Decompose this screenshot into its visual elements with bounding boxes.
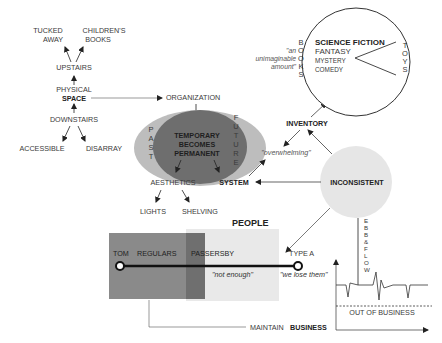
svg-text:F: F [234, 113, 239, 122]
arrow-to-disarray [78, 126, 85, 141]
svg-text:W: W [364, 266, 370, 273]
arrow-inconsistent-to-type-a [286, 208, 330, 252]
label-fantasy: FANTASY [315, 47, 352, 56]
svg-text:E: E [233, 158, 238, 167]
label-we-lose-them: "we lose them" [280, 270, 328, 279]
label-quote-an: "an [286, 47, 296, 54]
label-inconsistent: INCONSISTENT [330, 178, 384, 187]
label-books: B O O K S [298, 38, 304, 79]
label-out-of-business: OUT OF BUSINESS [349, 308, 415, 317]
svg-text:S: S [298, 70, 303, 79]
label-overwhelming: "overwhelming" [261, 148, 311, 157]
svg-text:B: B [364, 231, 368, 238]
label-regulars: REGULARS [137, 249, 177, 258]
label-not-enough: "not enough" [212, 270, 254, 279]
label-disarray: DISARRAY [86, 144, 122, 153]
label-childrens-books-2: BOOKS [85, 35, 111, 44]
svg-text:O: O [364, 259, 369, 266]
svg-text:S: S [402, 65, 407, 74]
svg-text:A: A [148, 134, 153, 143]
svg-text:S: S [148, 143, 153, 152]
label-downstairs: DOWNSTAIRS [50, 115, 98, 124]
label-aesthetics: AESTHETICS [150, 178, 195, 187]
label-childrens-books-1: CHILDREN'S [83, 26, 126, 35]
svg-text:&: & [364, 238, 369, 245]
svg-text:R: R [233, 149, 239, 158]
svg-text:T: T [234, 131, 239, 140]
label-mystery: MYSTERY [315, 57, 347, 64]
label-quote-amount: amount" [271, 63, 297, 70]
arrow-to-childrens-books [76, 47, 83, 62]
svg-text:T: T [149, 152, 154, 161]
label-people: PEOPLE [232, 218, 269, 228]
arrow-inventory-to-overwhelming [284, 130, 300, 146]
ebb-flow-wave [336, 272, 428, 300]
type-a-endpoint [294, 262, 302, 270]
label-upstairs: UPSTAIRS [56, 63, 92, 72]
label-tom: TOM [113, 249, 129, 258]
concept-map: TUCKED AWAY CHILDREN'S BOOKS UPSTAIRS PH… [0, 0, 442, 343]
arrow-to-accessible [63, 126, 70, 141]
label-becomes: BECOMES [179, 140, 216, 149]
label-lights: LIGHTS [140, 207, 166, 216]
label-temporary: TEMPORARY [174, 131, 220, 140]
label-tucked-away-2: AWAY [43, 35, 63, 44]
svg-text:P: P [148, 125, 153, 134]
label-permanent: PERMANENT [174, 149, 220, 158]
label-shelving: SHELVING [182, 207, 218, 216]
label-quote-unimaginable: unimaginable [256, 55, 297, 63]
label-comedy: COMEDY [315, 66, 344, 73]
label-future: F U T U R E [233, 113, 239, 167]
arrow-inconsistent-to-inventory [308, 130, 332, 154]
svg-text:U: U [233, 122, 238, 131]
tom-endpoint [116, 262, 124, 270]
label-toys: T O Y S [402, 41, 408, 74]
arrow-to-shelving [182, 190, 189, 202]
maintain-business-connector [149, 300, 246, 327]
label-science-fiction: SCIENCE FICTION [315, 38, 385, 47]
svg-text:U: U [233, 140, 238, 149]
label-past: P A S T [148, 125, 153, 161]
label-physical: PHYSICAL [56, 85, 92, 94]
arrow-to-tucked-away [65, 47, 71, 62]
label-tucked-away-1: TUCKED [33, 26, 63, 35]
arrow-to-lights [156, 190, 161, 202]
label-business: BUSINESS [290, 323, 327, 332]
label-ebb-and-flow: E B B & F L O W [364, 217, 370, 273]
label-space: SPACE [62, 94, 86, 103]
svg-text:E: E [364, 217, 368, 224]
label-passersby: PASSERSBY [191, 249, 234, 258]
svg-text:L: L [364, 252, 368, 259]
label-accessible: ACCESSIBLE [19, 144, 64, 153]
svg-text:B: B [364, 224, 368, 231]
label-inventory: INVENTORY [286, 119, 328, 128]
label-organization: ORGANIZATION [166, 93, 220, 102]
svg-text:F: F [364, 245, 368, 252]
label-maintain: MAINTAIN [250, 323, 284, 332]
label-type-a: TYPE A [289, 249, 314, 258]
label-system: SYSTEM [219, 178, 249, 187]
